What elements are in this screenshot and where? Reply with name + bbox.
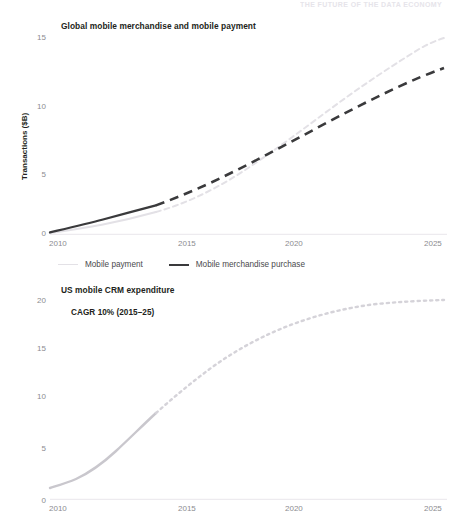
- chart-1-xtick-2025: 2025: [424, 239, 442, 248]
- chart-2-ytick-10: 10: [28, 392, 46, 401]
- chart-1-legend: Mobile payment Mobile merchandise purcha…: [58, 260, 305, 269]
- chart-1-series-mobile-payment-actual: [50, 212, 156, 233]
- legend-item-mobile-merchandise-purchase[interactable]: Mobile merchandise purchase: [169, 260, 305, 269]
- chart-2-ytick-5: 5: [28, 444, 46, 453]
- chart-1-ytick-15: 15: [28, 33, 46, 42]
- chart-1-ytick-0: 0: [28, 229, 46, 238]
- chart-2-xtick-2015: 2015: [178, 504, 196, 513]
- chart-2-ytick-15: 15: [28, 344, 46, 353]
- chart-panel-mobile-merchandise: Global mobile merchandise and mobile pay…: [0, 0, 461, 278]
- legend-swatch-light-icon: [58, 264, 78, 265]
- chart-1-plot-area: [50, 38, 447, 235]
- chart-2-xtick-2025: 2025: [424, 504, 442, 513]
- chart-2-series-actual: [50, 413, 156, 488]
- chart-2-ytick-20: 20: [28, 296, 46, 305]
- chart-1-xtick-2020: 2020: [285, 239, 303, 248]
- chart-1-ytick-10: 10: [28, 102, 46, 111]
- chart-1-ytick-5: 5: [28, 170, 46, 179]
- chart-1-series-mobile-merchandise-forecast: [156, 68, 444, 205]
- chart-1-series-mobile-payment-forecast: [156, 38, 444, 212]
- legend-label-mobile-merchandise-purchase: Mobile merchandise purchase: [196, 260, 305, 269]
- legend-item-mobile-payment[interactable]: Mobile payment: [58, 260, 143, 269]
- chart-1-title: Global mobile merchandise and mobile pay…: [61, 21, 256, 31]
- chart-2-series-forecast: [156, 300, 444, 413]
- chart-1-xtick-2015: 2015: [178, 239, 196, 248]
- chart-2-xtick-2010: 2010: [49, 504, 67, 513]
- chart-1-series-mobile-merchandise-actual: [50, 205, 156, 232]
- legend-swatch-dark-icon: [169, 264, 189, 266]
- chart-2-ytick-0: 0: [28, 496, 46, 505]
- chart-2-xtick-2020: 2020: [285, 504, 303, 513]
- chart-2-title: US mobile CRM expenditure: [61, 285, 174, 295]
- chart-2-plot-area: [50, 300, 447, 500]
- chart-1-xtick-2010: 2010: [49, 239, 67, 248]
- legend-label-mobile-payment: Mobile payment: [85, 260, 143, 269]
- chart-panel-us-mobile-crm: US mobile CRM expenditure CAGR 10% (2015…: [0, 278, 461, 532]
